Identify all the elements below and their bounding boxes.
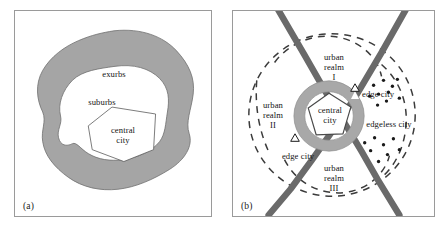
label-exurbs: exurbs (89, 70, 139, 80)
triangle-icon-svg (350, 83, 360, 92)
figure-container: exurbs suburbs central city (a) (0, 0, 447, 228)
triangle-icon (291, 141, 299, 149)
label-central-city-b-line2: city (307, 116, 353, 126)
label-edge-city-southwest: edge city (269, 152, 327, 162)
edge-city-northeast: edge city (351, 90, 394, 100)
label-edge-city-northeast: edge city (362, 90, 394, 100)
label-urban-realm-III-numeral: III (311, 184, 357, 194)
label-suburbs: suburbs (77, 98, 127, 108)
panel-a-graphic (15, 11, 211, 216)
label-edgeless-city: edgeless city (358, 120, 420, 130)
label-central-city-line2: city (98, 136, 148, 146)
label-urban-realm-II-numeral: II (250, 121, 296, 131)
panel-a-caption: (a) (23, 201, 34, 211)
panel-b-caption: (b) (241, 201, 253, 211)
triangle-icon (351, 91, 359, 99)
panel-b-urban-realms-model: urban realm I urban realm II urban realm… (232, 10, 435, 217)
triangle-icon-svg (290, 133, 300, 142)
label-urban-realm-I-numeral: I (311, 73, 357, 83)
panel-a-concentric-model: exurbs suburbs central city (a) (14, 10, 212, 217)
